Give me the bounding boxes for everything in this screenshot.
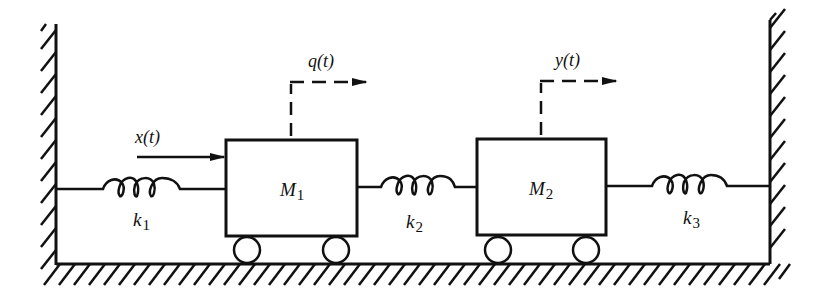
spring-k2 (357, 176, 477, 195)
wheel-m1-right (323, 237, 349, 263)
left-wall (41, 24, 56, 269)
spring-mass-diagram: M1 M2 x(t) q(t) y(t) k1 k2 k3 (0, 0, 815, 307)
displacement-q-label: q(t) (308, 51, 334, 72)
spring-k2-label: k2 (406, 211, 423, 235)
floor-hatching (44, 264, 790, 285)
displacement-y-label: y(t) (553, 50, 580, 71)
input-force-label: x(t) (134, 127, 160, 148)
floor (44, 264, 790, 285)
wheel-m1-left (234, 237, 260, 263)
displacement-y-indicator (540, 81, 616, 135)
diagram-canvas: M1 M2 x(t) q(t) y(t) k1 k2 k3 (0, 0, 815, 307)
wheel-m2-left (485, 237, 511, 263)
right-wall (770, 9, 785, 264)
spring-k3 (606, 175, 770, 194)
right-wall-hatching (770, 9, 785, 248)
displacement-q-indicator (290, 82, 366, 136)
input-force-arrow: x(t) (134, 127, 224, 157)
spring-k3-label: k3 (683, 207, 700, 231)
spring-k1-label: k1 (133, 209, 150, 233)
mass-m2: M2 (477, 139, 606, 263)
spring-k1 (56, 178, 226, 197)
wheel-m2-right (573, 237, 599, 263)
mass-m1: M1 (226, 140, 357, 263)
left-wall-hatching (41, 24, 56, 269)
